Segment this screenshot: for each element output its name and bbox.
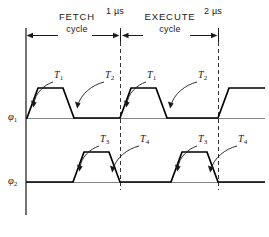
t-letter: T [147, 69, 153, 80]
phi2-edge-label-t3-a: T3 [100, 134, 109, 146]
phi1-subscript: 1 [14, 116, 18, 124]
t-letter: T [54, 69, 60, 80]
phi2-waveform-group [26, 152, 265, 183]
phi2-subscript: 2 [14, 180, 18, 188]
t-subscript: 1 [60, 74, 64, 82]
execute-cycle-label: EXECUTE [133, 12, 207, 22]
phi2-edge-label-t3-b: T3 [198, 134, 207, 146]
phi1-edge-leaders [31, 82, 197, 109]
t-subscript: 2 [111, 74, 115, 82]
leader-arrowhead-t2-a [75, 102, 81, 109]
t-letter: T [100, 133, 106, 144]
timing-diagram-figure: FETCH cycle EXECUTE cycle 1 µs 2 µs φ1 φ… [0, 0, 269, 237]
phi2-signal-label: φ2 [8, 175, 17, 188]
phi2-signal-trace [26, 152, 265, 182]
time-mark-1us: 1 µs [106, 7, 124, 16]
time-mark-2us: 2 µs [204, 7, 222, 16]
phi1-signal-label: φ1 [8, 111, 17, 124]
phi1-edge-label-t1-a: T1 [54, 70, 63, 82]
leader-t4-a [113, 146, 139, 169]
phi2-edge-label-t4-a: T4 [140, 134, 149, 146]
t-subscript: 1 [153, 74, 157, 82]
phi1-signal-trace [26, 88, 265, 118]
phi1-edge-label-t1-b: T1 [147, 70, 156, 82]
t-subscript: 4 [244, 138, 248, 146]
phi1-edge-label-t2-a: T2 [105, 70, 114, 82]
t-subscript: 4 [146, 138, 150, 146]
t-subscript: 2 [204, 74, 208, 82]
phi1-waveform-group [26, 88, 265, 119]
fetch-cycle-label: FETCH [44, 12, 110, 22]
timing-diagram-canvas [0, 0, 269, 237]
t-subscript: 3 [106, 138, 110, 146]
leader-t4-b [211, 146, 237, 169]
t-subscript: 3 [204, 138, 208, 146]
phi1-edge-label-t2-b: T2 [198, 70, 207, 82]
t-letter: T [105, 69, 111, 80]
leader-t2-a [78, 82, 104, 105]
execute-cycle-sublabel: cycle [133, 25, 207, 34]
fetch-cycle-sublabel: cycle [44, 25, 110, 34]
leader-t2-b [171, 82, 197, 105]
phi2-edge-label-t4-b: T4 [238, 134, 247, 146]
t-letter: T [140, 133, 146, 144]
t-letter: T [198, 69, 204, 80]
t-letter: T [238, 133, 244, 144]
leader-arrowhead-t2-b [168, 102, 174, 109]
t-letter: T [198, 133, 204, 144]
